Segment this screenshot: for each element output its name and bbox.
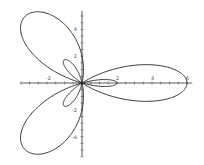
y-tick-label: 4 [74, 26, 77, 32]
y-tick-label: 2 [74, 53, 77, 59]
axes [21, 11, 193, 157]
plot-canvas: -224642-2-4 [0, 0, 204, 165]
x-tick-label: 2 [116, 75, 119, 81]
polar-plot: -224642-2-4 [0, 0, 204, 165]
x-tick-label: -2 [46, 75, 51, 81]
x-tick-label: 4 [151, 75, 154, 81]
y-tick-label: -2 [72, 107, 77, 113]
y-tick-label: -4 [72, 134, 77, 140]
